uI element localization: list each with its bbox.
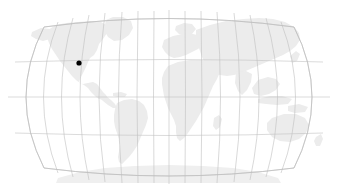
marker-group[interactable] [76, 60, 81, 65]
world-map-svg [0, 0, 337, 196]
location-marker[interactable] [76, 60, 81, 65]
world-map-container [0, 0, 337, 196]
